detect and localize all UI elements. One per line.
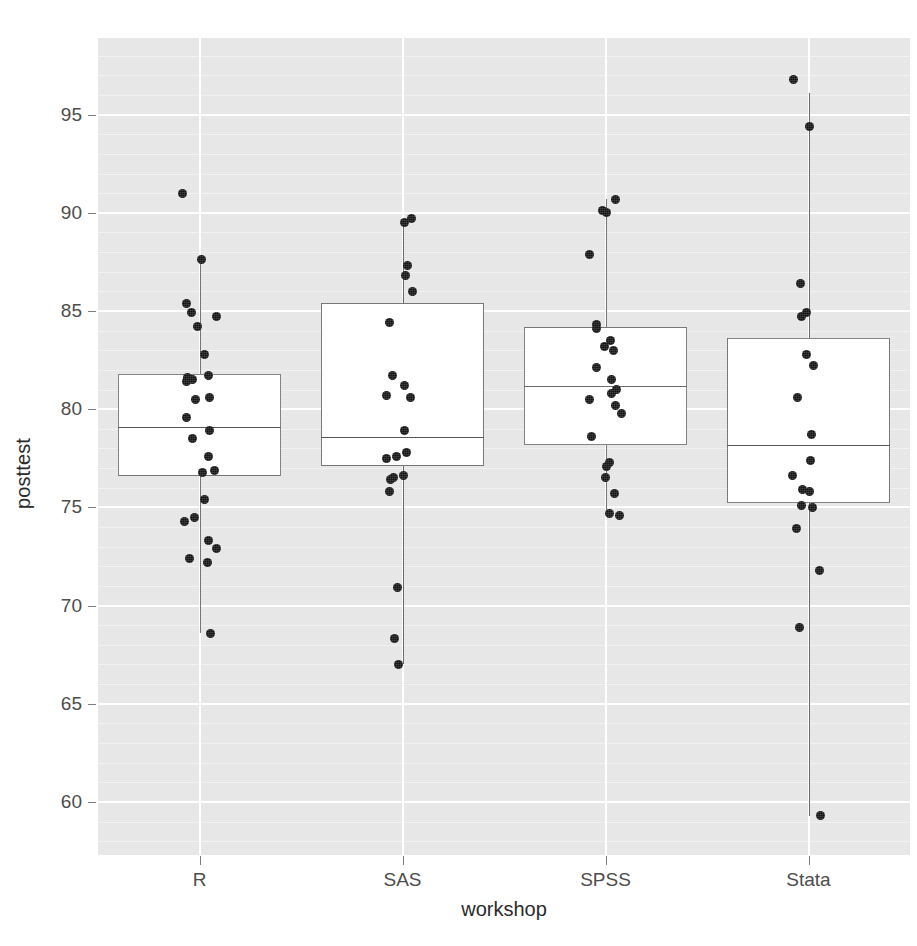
data-point-sas — [403, 261, 412, 270]
data-point-sas — [385, 487, 394, 496]
scan-artifact — [0, 928, 917, 946]
gridline-minor — [98, 782, 910, 783]
data-point-sas — [382, 454, 391, 463]
data-point-sas — [399, 471, 408, 480]
median-r — [118, 427, 281, 428]
data-point-r — [182, 299, 191, 308]
x-tick-stata — [809, 856, 810, 865]
data-point-spss — [611, 195, 620, 204]
data-point-spss — [605, 509, 614, 518]
gridline-major — [98, 212, 910, 214]
gridline-minor — [98, 291, 910, 292]
y-tick-label: 65 — [30, 693, 82, 715]
gridline-minor — [98, 763, 910, 764]
y-tick — [88, 115, 96, 116]
plot-panel — [98, 38, 910, 855]
data-point-r — [210, 466, 219, 475]
data-point-spss — [585, 395, 594, 404]
y-tick — [88, 802, 96, 803]
y-tick-label: 85 — [30, 300, 82, 322]
gridline-minor — [98, 841, 910, 842]
data-point-sas — [401, 271, 410, 280]
data-point-stata — [792, 524, 801, 533]
box-r — [118, 374, 281, 476]
data-point-spss — [610, 489, 619, 498]
x-tick-label-stata: Stata — [749, 869, 869, 891]
y-tick — [88, 311, 96, 312]
data-point-r — [200, 495, 209, 504]
gridline-minor — [98, 743, 910, 744]
data-point-r — [204, 452, 213, 461]
x-tick-sas — [403, 856, 404, 865]
data-point-stata — [796, 279, 805, 288]
data-point-stata — [808, 503, 817, 512]
data-point-sas — [392, 452, 401, 461]
gridline-minor — [98, 134, 910, 135]
data-point-r — [198, 468, 207, 477]
gridline-minor — [98, 566, 910, 567]
y-tick-label: 70 — [30, 595, 82, 617]
data-point-sas — [382, 391, 391, 400]
data-point-r — [188, 434, 197, 443]
data-point-stata — [805, 122, 814, 131]
y-tick-label: 80 — [30, 398, 82, 420]
gridline-minor — [98, 56, 910, 57]
data-point-r — [197, 255, 206, 264]
data-point-sas — [390, 634, 399, 643]
gridline-major — [98, 506, 910, 508]
data-point-r — [204, 536, 213, 545]
gridline-minor — [98, 822, 910, 823]
gridline-major — [98, 801, 910, 803]
y-tick-label: 90 — [30, 202, 82, 224]
data-point-r — [200, 350, 209, 359]
gridline-minor — [98, 331, 910, 332]
data-point-spss — [609, 346, 618, 355]
data-point-stata — [802, 350, 811, 359]
data-point-spss — [607, 375, 616, 384]
y-tick — [88, 507, 96, 508]
data-point-r — [187, 308, 196, 317]
data-point-sas — [385, 318, 394, 327]
data-point-sas — [386, 475, 395, 484]
data-point-r — [180, 517, 189, 526]
gridline-major — [98, 114, 910, 116]
data-point-r — [191, 395, 200, 404]
data-point-spss — [602, 462, 611, 471]
gridline-minor — [98, 95, 910, 96]
data-point-spss — [611, 401, 620, 410]
y-tick-label: 95 — [30, 104, 82, 126]
data-point-r — [185, 554, 194, 563]
data-point-sas — [400, 218, 409, 227]
data-point-r — [203, 558, 212, 567]
median-spss — [524, 386, 687, 387]
data-point-spss — [585, 250, 594, 259]
data-point-sas — [402, 448, 411, 457]
x-tick-label-r: R — [140, 869, 260, 891]
x-axis-title: workshop — [98, 898, 910, 921]
y-tick — [88, 213, 96, 214]
y-tick — [88, 704, 96, 705]
data-point-r — [190, 513, 199, 522]
data-point-spss — [602, 208, 611, 217]
figure-root: posttest 6065707580859095RSASSPSSStata w… — [0, 0, 917, 946]
gridline-minor — [98, 645, 910, 646]
data-point-sas — [393, 583, 402, 592]
data-point-stata — [806, 456, 815, 465]
gridline-major — [98, 703, 910, 705]
data-point-r — [178, 189, 187, 198]
data-point-spss — [601, 473, 610, 482]
data-point-stata — [795, 623, 804, 632]
data-point-spss — [617, 409, 626, 418]
y-tick — [88, 409, 96, 410]
gridline-minor — [98, 684, 910, 685]
x-tick-label-sas: SAS — [343, 869, 463, 891]
gridline-minor — [98, 723, 910, 724]
data-point-stata — [815, 566, 824, 575]
gridline-minor — [98, 625, 910, 626]
y-tick — [88, 606, 96, 607]
data-point-stata — [789, 75, 798, 84]
data-point-r — [212, 544, 221, 553]
gridline-major — [98, 310, 910, 312]
data-point-spss — [615, 511, 624, 520]
data-point-r — [205, 393, 214, 402]
